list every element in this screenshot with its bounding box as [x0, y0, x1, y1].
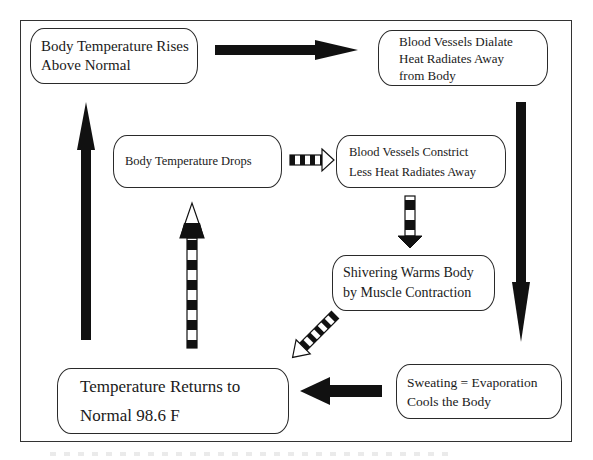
arrow-dilate-to-sweating — [512, 102, 530, 342]
arrow-constrict-to-shivering — [398, 196, 422, 248]
node-line: from Body — [399, 67, 547, 84]
node-temperature-returns: Temperature Returns to Normal 98.6 F — [57, 368, 289, 434]
node-line: Sweating = Evaporation — [407, 373, 561, 392]
node-vessels-dilate: Blood Vessels Dialate Heat Radiates Away… — [378, 30, 548, 86]
node-line: Above Normal — [41, 56, 197, 75]
node-line: Temperature Returns to — [80, 372, 288, 401]
node-line: Blood Vessels Dialate — [399, 33, 547, 50]
arrow-shivering-to-returns — [286, 308, 343, 365]
arrow-rises-to-dilate — [215, 40, 358, 60]
node-line: Shivering Warms Body — [343, 263, 494, 283]
node-temperature-rises: Body Temperature Rises Above Normal — [30, 28, 198, 84]
node-line: Less Heat Radiates Away — [349, 162, 505, 182]
node-line: Normal 98.6 F — [80, 401, 288, 430]
node-sweating: Sweating = Evaporation Cools the Body — [396, 364, 562, 419]
node-line: Body Temperature Rises — [41, 37, 197, 56]
node-line: by Muscle Contraction — [343, 283, 494, 303]
node-line: Heat Radiates Away — [399, 50, 547, 67]
arrow-returns-to-rises — [77, 102, 95, 340]
node-line: Body Temperature Drops — [125, 154, 281, 169]
node-vessels-constrict: Blood Vessels Constrict Less Heat Radiat… — [336, 135, 506, 188]
faint-caption-artifact — [50, 452, 450, 456]
arrow-sweating-to-returns — [300, 377, 382, 405]
node-line: Blood Vessels Constrict — [349, 142, 505, 162]
arrow-returns-to-drops — [180, 203, 204, 348]
node-shivering: Shivering Warms Body by Muscle Contracti… — [332, 255, 495, 311]
node-temperature-drops: Body Temperature Drops — [113, 135, 282, 188]
node-line: Cools the Body — [407, 392, 561, 411]
arrow-drops-to-constrict — [290, 149, 334, 171]
